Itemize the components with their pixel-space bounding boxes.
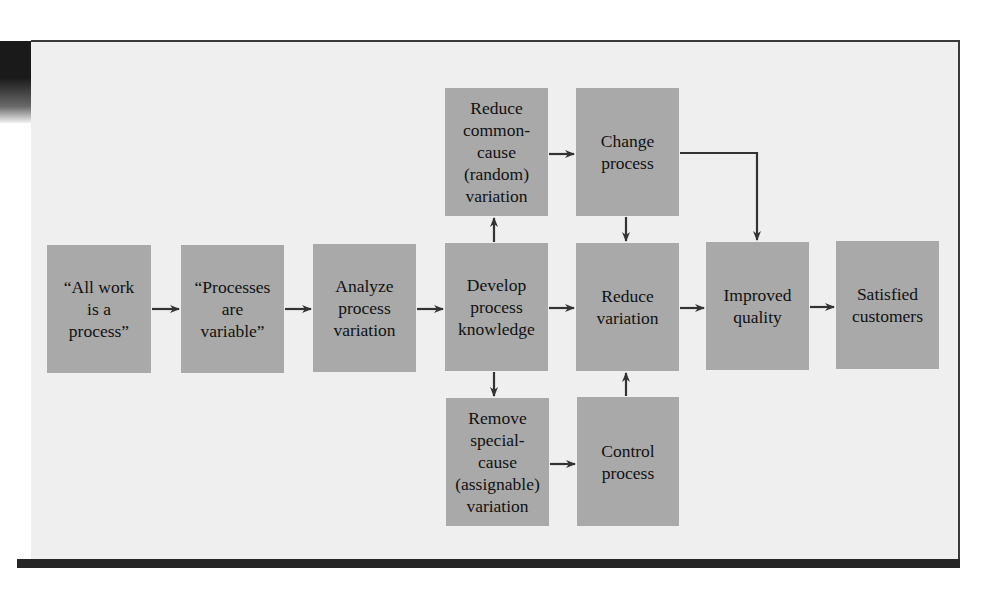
node-improved-quality: Improved quality (706, 242, 809, 370)
node-remove-special-cause: Remove special- cause (assignable) varia… (446, 398, 549, 526)
node-all-work: “All work is a process” (47, 245, 151, 373)
node-satisfied-customers: Satisfied customers (836, 241, 939, 369)
node-reduce-common-cause: Reduce common- cause (random) variation (445, 88, 548, 216)
node-analyze-process-variation: Analyze process variation (313, 244, 416, 372)
node-reduce-variation: Reduce variation (576, 243, 679, 371)
node-control-process: Control process (577, 397, 679, 526)
figure-bottom-rule (17, 559, 960, 568)
node-develop-process-knowledge: Develop process knowledge (445, 243, 548, 371)
page-tab-marker (0, 41, 31, 123)
node-change-process: Change process (576, 88, 679, 216)
node-processes-variable: “Processes are variable” (181, 245, 284, 373)
